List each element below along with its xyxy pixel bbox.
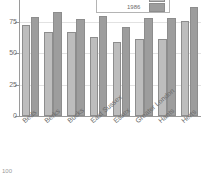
bar (181, 21, 190, 116)
bar (22, 25, 31, 116)
legend-swatch-1986 (149, 3, 165, 12)
bar (135, 39, 144, 116)
bar (76, 19, 85, 116)
bar (167, 18, 176, 116)
y-tick-label-50: 50 (1, 49, 17, 56)
x-axis-labels: BedsBerksBucksEast SussexEssexGreater Lo… (19, 117, 201, 162)
legend: 1981 1986 (96, 0, 170, 13)
bar (90, 37, 99, 116)
bar (122, 27, 131, 116)
bar (67, 32, 76, 116)
bar (53, 12, 62, 116)
y-tick-label-75: 75 (1, 18, 17, 25)
y-tick-label-0: 0 (1, 112, 17, 119)
bar (44, 32, 53, 116)
bar (99, 16, 108, 116)
legend-label-1986: 1986 (127, 4, 140, 11)
legend-entry-1986: 1986 (101, 3, 169, 12)
legend-label-1981: 1981 (127, 0, 140, 1)
y-tick-label-25: 25 (1, 81, 17, 88)
footer-fragment: 100 (2, 168, 12, 175)
legend-entry-1981: 1981 (101, 0, 169, 2)
legend-swatch-1981 (149, 0, 165, 2)
bar (190, 7, 199, 116)
bar (31, 17, 40, 116)
bar-chart: 75 50 25 0 BedsBerksBucksEast SussexEsse… (0, 0, 201, 178)
bar (144, 18, 153, 116)
